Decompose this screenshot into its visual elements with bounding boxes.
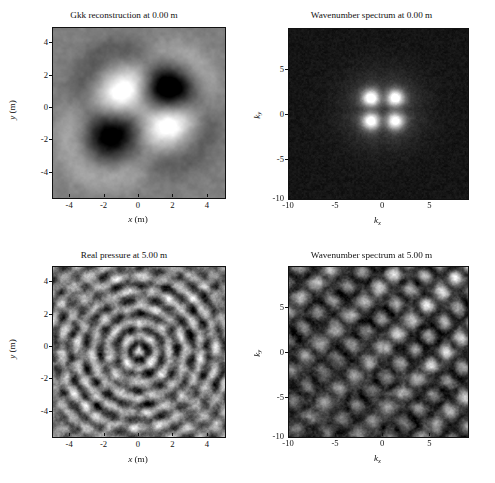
x-axis-label-unit: (m) xyxy=(132,454,148,464)
xtick-mark xyxy=(335,433,336,436)
y-axis-label-symbol: k xyxy=(252,353,262,357)
y-axis-label-subscript: y xyxy=(255,350,262,353)
ytick-mark xyxy=(285,397,288,398)
xtick-label: 2 xyxy=(159,439,185,449)
ytick-label: 5 xyxy=(262,302,284,312)
xtick-mark xyxy=(335,195,336,198)
xtick-label: 5 xyxy=(416,438,442,448)
ytick-label: -5 xyxy=(262,392,284,402)
y-axis-label-unit: (m) xyxy=(7,339,17,355)
x-axis-label-unit: (m) xyxy=(132,214,148,224)
xtick-label: -10 xyxy=(273,200,303,210)
xtick-mark xyxy=(69,433,70,436)
x-axis-label: x (m) xyxy=(52,454,224,464)
ytick-label: -2 xyxy=(30,134,48,144)
xtick-label: -2 xyxy=(91,439,117,449)
ytick-label: 4 xyxy=(30,37,48,47)
heatmap-wavenumber-spectrum-0 xyxy=(288,28,469,200)
xtick-mark xyxy=(138,194,139,197)
ytick-mark xyxy=(49,172,52,173)
heatmap-wavenumber-spectrum-5 xyxy=(288,266,469,438)
y-axis-label: y (m) xyxy=(7,80,17,140)
xtick-mark xyxy=(429,195,430,198)
xtick-label: 0 xyxy=(369,200,395,210)
xtick-label: 0 xyxy=(125,200,151,210)
panel-wavenumber-spectrum-5: Wavenumber spectrum at 5.00 m 5 0 -5 -10… xyxy=(248,240,495,483)
y-axis-label-symbol: y xyxy=(7,116,17,120)
xtick-label: 2 xyxy=(159,200,185,210)
xtick-label: -2 xyxy=(91,200,117,210)
ytick-mark xyxy=(49,378,52,379)
ytick-mark xyxy=(285,307,288,308)
xtick-label: -4 xyxy=(56,200,82,210)
xtick-mark xyxy=(382,195,383,198)
panel-real-pressure: Real pressure at 5.00 m 4 2 0 -2 -4 -4 -… xyxy=(0,240,248,483)
xtick-label: 4 xyxy=(194,439,220,449)
y-axis-label-symbol: k xyxy=(252,115,262,119)
ytick-mark xyxy=(49,346,52,347)
ytick-label: -5 xyxy=(262,154,284,164)
y-axis-label: y (m) xyxy=(7,319,17,379)
heatmap-gkk-reconstruction xyxy=(52,27,226,199)
xtick-mark xyxy=(288,195,289,198)
panel-title: Wavenumber spectrum at 5.00 m xyxy=(258,250,485,261)
y-axis-label-symbol: y xyxy=(7,355,17,359)
xtick-mark xyxy=(172,433,173,436)
x-axis-label: x (m) xyxy=(52,214,224,224)
y-axis-label: ky xyxy=(252,328,263,378)
ytick-mark xyxy=(285,114,288,115)
figure-canvas: Gkk reconstruction at 0.00 m 4 2 0 -2 -4… xyxy=(0,0,495,483)
x-axis-label-subscript: x xyxy=(378,457,381,464)
ytick-mark xyxy=(49,107,52,108)
ytick-mark xyxy=(285,159,288,160)
ytick-mark xyxy=(285,352,288,353)
ytick-label: 0 xyxy=(30,102,48,112)
xtick-label: 0 xyxy=(369,438,395,448)
y-axis-label-unit: (m) xyxy=(7,100,17,116)
ytick-label: 0 xyxy=(30,341,48,351)
ytick-mark xyxy=(49,42,52,43)
xtick-mark xyxy=(382,433,383,436)
panel-title: Wavenumber spectrum at 0.00 m xyxy=(258,10,485,21)
panel-title: Real pressure at 5.00 m xyxy=(10,250,238,261)
x-axis-label: kx xyxy=(288,453,467,464)
ytick-label: 4 xyxy=(30,276,48,286)
ytick-mark xyxy=(49,281,52,282)
xtick-mark xyxy=(207,194,208,197)
xtick-label: -5 xyxy=(322,438,348,448)
xtick-label: -10 xyxy=(273,438,303,448)
ytick-label: 5 xyxy=(262,64,284,74)
xtick-mark xyxy=(69,194,70,197)
xtick-mark xyxy=(104,194,105,197)
ytick-mark xyxy=(49,411,52,412)
xtick-label: 5 xyxy=(416,200,442,210)
ytick-label: 0 xyxy=(262,109,284,119)
ytick-label: -4 xyxy=(30,406,48,416)
xtick-label: -4 xyxy=(56,439,82,449)
xtick-mark xyxy=(104,433,105,436)
xtick-label: 0 xyxy=(125,439,151,449)
xtick-mark xyxy=(172,194,173,197)
heatmap-real-pressure xyxy=(52,266,226,438)
xtick-mark xyxy=(207,433,208,436)
y-axis-label: ky xyxy=(252,90,263,140)
ytick-label: 2 xyxy=(30,70,48,80)
xtick-label: -5 xyxy=(322,200,348,210)
ytick-mark xyxy=(49,75,52,76)
xtick-mark xyxy=(288,433,289,436)
x-axis-label: kx xyxy=(288,215,467,226)
xtick-mark xyxy=(429,433,430,436)
ytick-label: -4 xyxy=(30,167,48,177)
panel-wavenumber-spectrum-0: Wavenumber spectrum at 0.00 m 5 0 -5 -10… xyxy=(248,0,495,240)
ytick-label: 2 xyxy=(30,309,48,319)
ytick-mark xyxy=(285,69,288,70)
xtick-label: 4 xyxy=(194,200,220,210)
ytick-mark xyxy=(49,314,52,315)
panel-gkk-reconstruction: Gkk reconstruction at 0.00 m 4 2 0 -2 -4… xyxy=(0,0,248,240)
xtick-mark xyxy=(138,433,139,436)
ytick-label: 0 xyxy=(262,347,284,357)
panel-title: Gkk reconstruction at 0.00 m xyxy=(10,10,238,21)
x-axis-label-subscript: x xyxy=(378,219,381,226)
ytick-label: -2 xyxy=(30,373,48,383)
ytick-mark xyxy=(49,139,52,140)
